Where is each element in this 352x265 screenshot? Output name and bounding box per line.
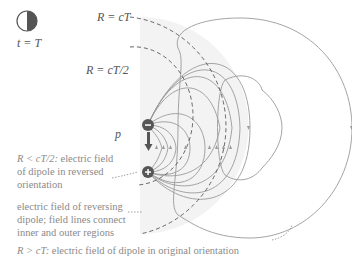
annotation-middle: electric field of reversing dipole; fiel… — [17, 200, 129, 239]
annotation-inner: R < cT/2: electric field of dipole in re… — [17, 152, 122, 191]
dipole-moment-label: p⃗ — [115, 128, 130, 140]
outer-radius-label: R = cT — [97, 11, 130, 23]
clock-icon — [17, 11, 37, 31]
annotation-outer: R > cT: electric field of dipole in orig… — [17, 244, 307, 257]
annotation-inner-math: R < cT/2: — [17, 153, 58, 164]
annotation-outer-text: electric field of dipole in original ori… — [52, 245, 239, 256]
inner-radius-label: R = cT/2 — [86, 64, 129, 76]
dipole-vector-arrow — [147, 132, 150, 144]
time-label: t = T — [17, 37, 41, 49]
annotation-outer-math: R > cT: — [17, 245, 49, 256]
